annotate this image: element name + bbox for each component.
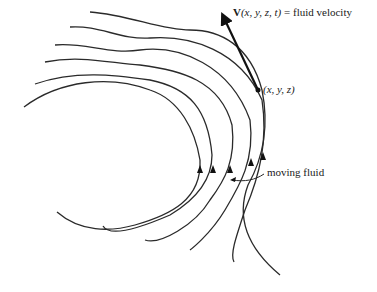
streamlines	[24, 12, 280, 275]
leader-arrow-icon	[230, 177, 236, 182]
streamline-1	[24, 82, 200, 230]
velocity-equals: = fluid velocity	[281, 6, 352, 18]
velocity-vector	[224, 18, 258, 90]
point-label: (x, y, z)	[263, 83, 295, 95]
streamline-5	[70, 27, 264, 262]
velocity-label: V(x, y, z, t) = fluid velocity	[233, 6, 352, 18]
moving-fluid-label: moving fluid	[267, 166, 324, 178]
leader-line	[232, 174, 264, 181]
streamline-diagram	[0, 0, 377, 292]
point-marker	[256, 88, 261, 93]
velocity-args: (x, y, z, t)	[241, 6, 281, 18]
arrow-icon	[197, 165, 203, 173]
streamline-2	[35, 75, 212, 232]
velocity-symbol: V	[233, 6, 241, 18]
